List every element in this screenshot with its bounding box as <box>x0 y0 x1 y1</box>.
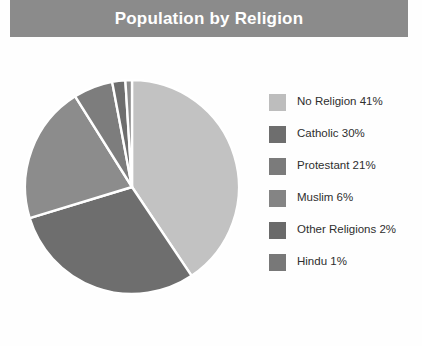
legend-item[interactable]: Other Religions 2% <box>269 214 419 246</box>
legend-swatch-icon <box>269 94 286 111</box>
pie-chart-svg <box>24 79 240 295</box>
legend-swatch-icon <box>269 222 286 239</box>
legend-swatch-icon <box>269 126 286 143</box>
legend-item-label: Catholic 30% <box>297 128 365 140</box>
legend-item-label: Other Religions 2% <box>297 224 396 236</box>
legend-item[interactable]: Protestant 21% <box>269 150 419 182</box>
legend-item-label: Muslim 6% <box>297 192 353 204</box>
legend-item[interactable]: Catholic 30% <box>269 118 419 150</box>
legend-item[interactable]: Muslim 6% <box>269 182 419 214</box>
legend-item-label: Protestant 21% <box>297 160 376 172</box>
legend-item-label: Hindu 1% <box>297 256 347 268</box>
chart-title-bar: Population by Religion <box>10 0 408 37</box>
legend-item-label: No Religion 41% <box>297 96 383 108</box>
pie-chart-plot-area <box>24 79 240 295</box>
page-title: Population by Religion <box>115 9 304 29</box>
legend-swatch-icon <box>269 190 286 207</box>
legend-item[interactable]: Hindu 1% <box>269 246 419 278</box>
legend-item[interactable]: No Religion 41% <box>269 86 419 118</box>
chart-legend: No Religion 41% Catholic 30% Protestant … <box>269 86 419 278</box>
pie-slice-group <box>25 80 239 294</box>
legend-swatch-icon <box>269 158 286 175</box>
pie-chart-figure: Population by Religion No Religion 41% C… <box>0 0 422 346</box>
legend-swatch-icon <box>269 254 286 271</box>
